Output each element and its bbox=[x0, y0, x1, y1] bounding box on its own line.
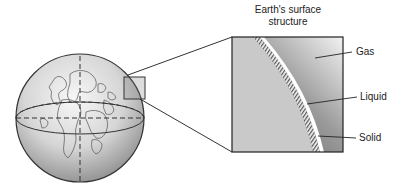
title-line-2: structure bbox=[228, 16, 348, 28]
label-gas: Gas bbox=[356, 46, 374, 57]
title-line-1: Earth's surface bbox=[228, 4, 348, 16]
label-liquid: Liquid bbox=[360, 91, 387, 102]
globe bbox=[16, 54, 144, 182]
connector-line-bottom bbox=[140, 99, 232, 152]
inset-view bbox=[232, 37, 343, 152]
earth-structure-diagram bbox=[0, 0, 396, 190]
diagram-title: Earth's surface structure bbox=[228, 4, 348, 28]
zoom-region-box bbox=[124, 77, 145, 99]
label-solid: Solid bbox=[359, 132, 381, 143]
connector-line-top bbox=[128, 37, 232, 75]
